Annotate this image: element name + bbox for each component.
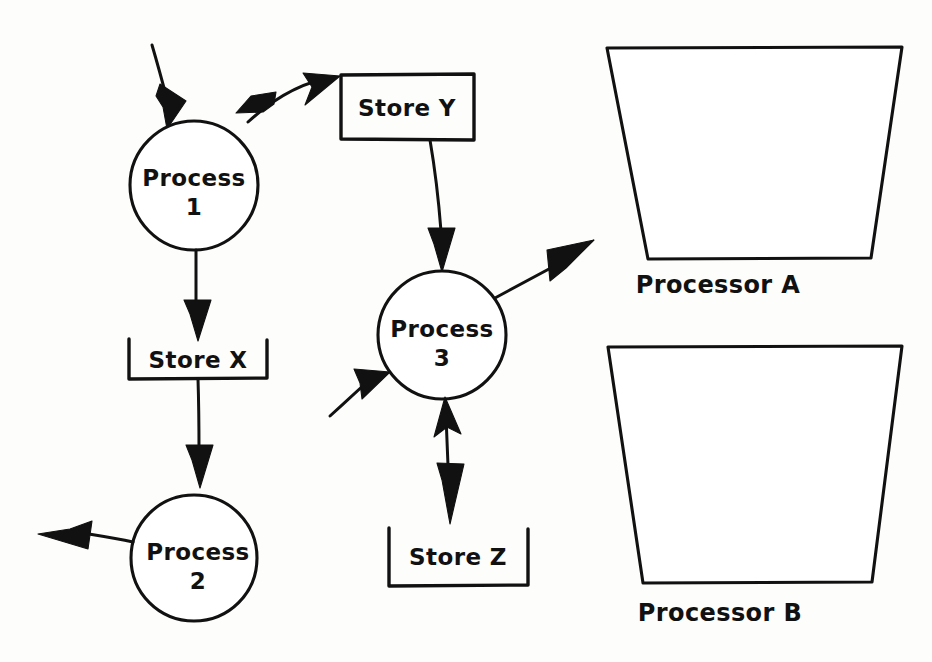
process-2[interactable]: Process 2	[131, 495, 257, 621]
flow-process-3-store-z	[434, 397, 464, 524]
store-y[interactable]: Store Y	[341, 74, 474, 140]
processor-a-label: Processor A	[636, 271, 801, 299]
store-y-label: Store Y	[358, 95, 456, 121]
dfd-diagram-canvas: Store Y Process 1 Store X	[0, 0, 932, 662]
store-x[interactable]: Store X	[129, 339, 267, 379]
flow-external-to-process-1	[152, 45, 186, 129]
flow-process-2-to-external	[38, 521, 133, 549]
process-3[interactable]: Process 3	[378, 271, 506, 399]
flow-store-y-to-process-3	[428, 140, 455, 272]
flow-process-1-to-store-x	[184, 250, 211, 341]
process-1-label: Process	[142, 165, 245, 191]
store-x-label: Store X	[149, 347, 248, 373]
process-1-number: 1	[186, 194, 202, 220]
flow-process-1-store-y	[236, 73, 340, 122]
store-z[interactable]: Store Z	[389, 528, 528, 586]
process-1[interactable]: Process 1	[130, 121, 258, 250]
process-2-number: 2	[190, 568, 206, 594]
store-z-label: Store Z	[409, 544, 507, 570]
processor-b-label: Processor B	[638, 599, 802, 627]
processor-a[interactable]	[607, 47, 902, 259]
processor-b[interactable]	[608, 346, 902, 583]
flow-process-3-to-external	[495, 240, 594, 298]
flow-external-to-process-3	[330, 369, 390, 416]
process-3-label: Process	[390, 316, 493, 342]
process-2-label: Process	[146, 539, 249, 565]
flow-store-x-to-process-2	[186, 379, 213, 488]
process-3-number: 3	[434, 345, 450, 371]
